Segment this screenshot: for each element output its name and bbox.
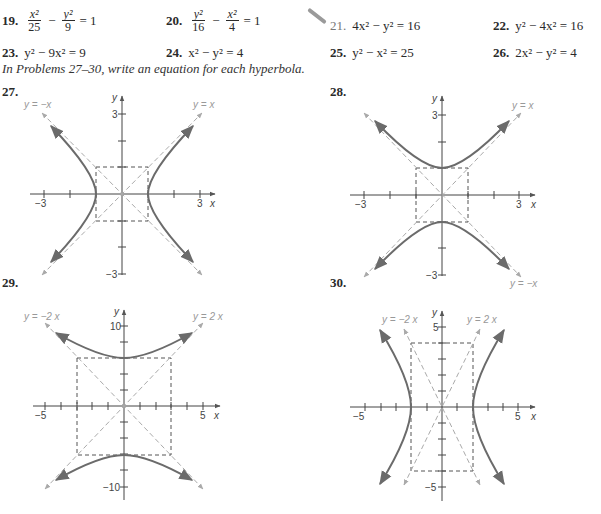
tick-label: −3 xyxy=(426,270,438,281)
x-axis-label: x xyxy=(530,199,537,210)
tick-label: 5 xyxy=(433,322,439,333)
graphs-canvas: −3 3 x 3 −3 y y = −x y = x −3 3 x 3 −3 y… xyxy=(0,0,601,514)
asymptote-label: y = −2 x xyxy=(381,314,419,325)
asymptote-label: y = 2 x xyxy=(192,311,224,322)
graph-27: −3 3 x 3 −3 y y = −x y = x xyxy=(23,92,216,280)
tick-label: 3 xyxy=(516,199,522,210)
tick-label: 3 xyxy=(197,198,203,209)
tick-label: 5 xyxy=(515,411,521,422)
y-axis-label: y xyxy=(431,93,438,104)
tick-label: 3 xyxy=(112,109,118,120)
asymptote-label: y = −x xyxy=(23,99,52,110)
y-axis-label: y xyxy=(111,92,118,103)
tick-label: −3 xyxy=(106,269,118,280)
graph-28: −3 3 x 3 −3 y y = x y = −x xyxy=(350,93,538,289)
asymptote-label: y = x xyxy=(511,100,534,111)
tick-label: 3 xyxy=(432,110,438,121)
asymptote-label: y = −x xyxy=(509,278,538,289)
graph-30: −5 5 x 5 −5 y y = −2 x y = 2 x xyxy=(350,307,537,501)
graph-29: −5 5 x 10 −10 y y = −2 x y = 2 x xyxy=(23,306,224,500)
tick-label: −10 xyxy=(103,482,120,493)
tick-label: −5 xyxy=(35,410,47,421)
y-axis-label: y xyxy=(113,306,120,317)
tick-label: −3 xyxy=(35,198,47,209)
y-axis-label: y xyxy=(431,307,438,318)
tick-label: −5 xyxy=(353,411,365,422)
tick-label: 10 xyxy=(110,321,122,332)
tick-label: −3 xyxy=(355,199,367,210)
tick-label: −5 xyxy=(425,482,437,493)
asymptote-label: y = 2 x xyxy=(466,314,498,325)
asymptote-label: y = x xyxy=(192,99,215,110)
asymptote-label: y = −2 x xyxy=(23,311,61,322)
tick-label: 5 xyxy=(200,410,206,421)
x-axis-label: x xyxy=(213,410,220,421)
x-axis-label: x xyxy=(209,198,216,209)
x-axis-label: x xyxy=(530,411,537,422)
